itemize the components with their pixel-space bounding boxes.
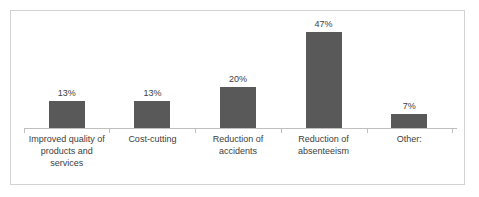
- bar-rect[interactable]: [220, 87, 256, 128]
- bar-rect[interactable]: [391, 114, 427, 128]
- category-label-reduction-of-absenteeism: Reduction of absenteeism: [281, 133, 367, 169]
- bar-group-reduction-of-absenteeism[interactable]: 47%: [281, 13, 367, 128]
- bar-data-label: 20%: [229, 74, 247, 85]
- bar-group-cost-cutting[interactable]: 13%: [110, 13, 196, 128]
- bar-data-label: 7%: [403, 101, 416, 112]
- bar-group-improved-quality[interactable]: 13%: [24, 13, 110, 128]
- category-label-other: Other:: [366, 133, 452, 169]
- bar-data-label: 47%: [315, 19, 333, 30]
- axis-tick: [452, 129, 453, 133]
- category-label-improved-quality: Improved quality of products and service…: [24, 133, 110, 169]
- bar-group-other[interactable]: 7%: [366, 13, 452, 128]
- bar-data-label: 13%: [58, 88, 76, 99]
- plot-area: 13% 13% 20% 47% 7%: [24, 13, 452, 128]
- bar-rect[interactable]: [306, 32, 342, 128]
- bar-group-reduction-of-accidents[interactable]: 20%: [195, 13, 281, 128]
- chart-frame: 13% 13% 20% 47% 7%: [10, 10, 465, 185]
- category-axis-line: [24, 128, 457, 129]
- bar-rect[interactable]: [49, 101, 85, 128]
- bar-rect[interactable]: [134, 101, 170, 128]
- bar-series: 13% 13% 20% 47% 7%: [24, 13, 452, 128]
- bar-data-label: 13%: [143, 88, 161, 99]
- category-label-reduction-of-accidents: Reduction of accidents: [195, 133, 281, 169]
- category-labels: Improved quality of products and service…: [24, 133, 452, 169]
- category-label-cost-cutting: Cost-cutting: [110, 133, 196, 169]
